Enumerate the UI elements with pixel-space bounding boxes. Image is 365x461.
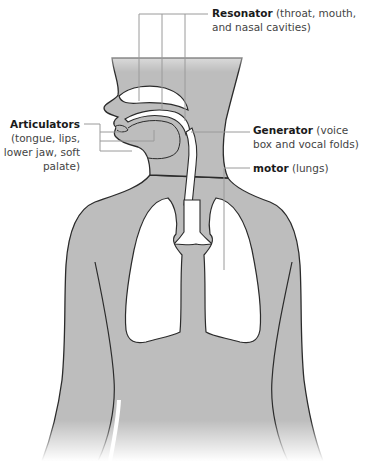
- generator-term: Generator: [253, 124, 313, 136]
- resonator-label: Resonator (throat, mouth, and nasal cavi…: [212, 6, 362, 34]
- resonator-term: Resonator: [212, 7, 273, 19]
- articulators-label: Articulators (tongue, lips, lower jaw, s…: [2, 117, 80, 173]
- motor-label: motor (lungs): [253, 161, 363, 175]
- generator-label: Generator (voice box and vocal folds): [253, 123, 365, 151]
- articulators-term: Articulators: [10, 118, 80, 130]
- motor-detail: (lungs): [292, 162, 329, 174]
- anatomy-illustration: [0, 0, 365, 461]
- torso: [42, 175, 323, 461]
- motor-term: motor: [253, 162, 289, 174]
- articulators-detail: (tongue, lips, lower jaw, soft palate): [4, 132, 80, 172]
